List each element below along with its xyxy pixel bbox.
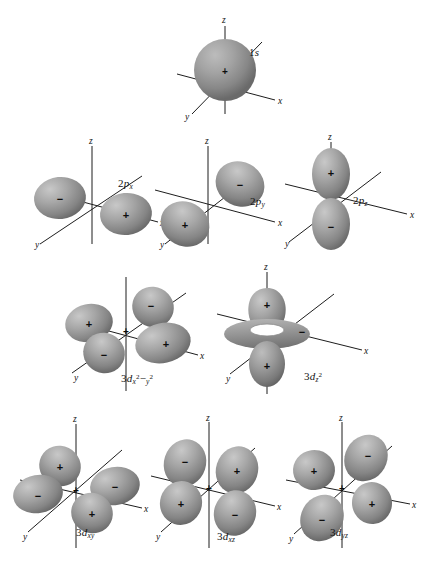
sign-negative: − — [237, 179, 243, 191]
orbital-2pz: + − z x y 2pz — [285, 132, 424, 252]
sign-positive: + — [178, 498, 184, 510]
sign-positive: + — [123, 209, 129, 221]
orbital-1s-diagram: + z x y — [152, 14, 302, 124]
orbital-label-2px: 2px — [118, 177, 133, 191]
orbital-label-3dyz: 3dyz — [330, 526, 348, 540]
sign-negative: − — [148, 300, 154, 312]
orbital-2px-diagram: − + z x y — [18, 140, 168, 250]
z-axis-label: z — [72, 414, 77, 424]
z-axis-label: z — [204, 136, 209, 146]
torus-hole — [250, 324, 284, 336]
sign-positive: + — [264, 360, 270, 372]
origin-marker: + — [339, 483, 345, 494]
sign-positive: + — [163, 338, 169, 350]
y-axis-label: y — [22, 532, 28, 542]
x-axis-label: x — [199, 351, 205, 361]
orbital-label-3dx2-y2: 3dx2−y2 — [121, 372, 153, 386]
sign-positive: + — [182, 219, 188, 231]
orbital-3dxz: − + + − + z x y 3dxz — [145, 418, 285, 553]
z-axis-label: z — [88, 136, 93, 146]
z-axis-label: z — [327, 132, 332, 142]
sign-positive: + — [89, 508, 95, 520]
orbital-3dxz-diagram: − + + − + z x y — [145, 418, 285, 553]
x-axis-label: x — [277, 218, 283, 228]
z-axis-label: z — [338, 413, 343, 423]
sign-negative: − — [319, 514, 325, 526]
orbital-figure: + z x y 1s − + z x y 2px — [0, 0, 424, 565]
sign-positive: + — [369, 498, 375, 510]
z-axis-label: z — [263, 262, 268, 272]
sign-negative: − — [365, 450, 371, 462]
orbital-3dyz-diagram: + − − + + z x y — [282, 418, 422, 553]
y-axis-label: y — [159, 240, 165, 250]
y-axis-label: y — [225, 374, 231, 384]
sign-positive: + — [311, 465, 317, 477]
orbital-2pz-diagram: + − z x y — [285, 132, 424, 252]
y-axis-label: y — [155, 532, 161, 542]
sign-positive: + — [86, 318, 92, 330]
orbital-1s: + z x y 1s — [152, 14, 302, 124]
sign-negative: − — [112, 481, 118, 493]
sign-negative: − — [328, 221, 334, 233]
x-axis-label: x — [411, 500, 417, 510]
z-axis-label: z — [221, 15, 226, 25]
orbital-3dz2: + + − z x y 3dz2 — [212, 272, 372, 397]
y-axis-label: y — [184, 112, 190, 122]
y-axis-label: y — [73, 373, 79, 383]
sign-positive: + — [57, 461, 63, 473]
origin-marker: + — [123, 326, 129, 337]
orbital-label-3dz2: 3dz2 — [304, 370, 322, 384]
sign-positive: + — [222, 66, 228, 77]
sign-positive: + — [264, 299, 270, 311]
y-axis-label: y — [288, 534, 294, 544]
sign-positive: + — [234, 465, 240, 477]
orbital-label-3dxy: 3dxy — [76, 526, 94, 540]
x-axis-label: x — [409, 210, 415, 220]
origin-marker: + — [73, 485, 79, 496]
x-axis-label: x — [277, 96, 283, 106]
x-axis-label: x — [363, 346, 369, 356]
orbital-2py: − + z x y 2py — [155, 140, 305, 250]
orbital-label-2pz: 2pz — [353, 194, 368, 208]
orbital-3dx2-y2: + − − + + x y 3dx2−y2 — [38, 275, 203, 395]
orbital-3dyz: + − − + + z x y 3dyz — [282, 418, 422, 553]
orbital-3dxy: + − − + + z x y 3dxy — [10, 418, 150, 553]
orbital-label-1s: 1s — [249, 46, 259, 58]
z-axis-label: z — [205, 413, 210, 423]
orbital-label-3dxz: 3dxz — [217, 530, 235, 544]
sign-negative: − — [101, 349, 107, 361]
sign-negative: − — [299, 326, 305, 338]
orbital-2py-diagram: − + z x y — [155, 140, 305, 250]
y-axis-label: y — [34, 240, 40, 250]
orbital-3dz2-diagram: + + − z x y — [212, 272, 372, 397]
sign-positive: + — [328, 167, 334, 179]
sign-negative: − — [35, 490, 41, 502]
origin-marker: + — [206, 483, 212, 494]
y-axis-label: y — [284, 239, 290, 249]
sign-negative: − — [57, 193, 63, 205]
sign-negative: − — [182, 456, 188, 468]
orbital-2px: − + z x y 2px — [18, 140, 168, 250]
orbital-label-2py: 2py — [250, 195, 265, 209]
sign-negative: − — [232, 509, 238, 521]
